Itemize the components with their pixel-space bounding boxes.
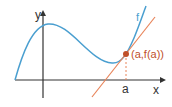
tangent-line-diagram: y x f (a,f(a)) a (0, 0, 172, 107)
y-axis-label: y (35, 9, 41, 21)
curve-label: f (136, 11, 139, 23)
tangent-point (123, 51, 129, 57)
x-axis-label: x (153, 84, 159, 96)
x-axis-arrow-icon (160, 77, 166, 83)
point-label: (a,f(a)) (131, 48, 164, 60)
tick-label-a: a (122, 83, 129, 95)
